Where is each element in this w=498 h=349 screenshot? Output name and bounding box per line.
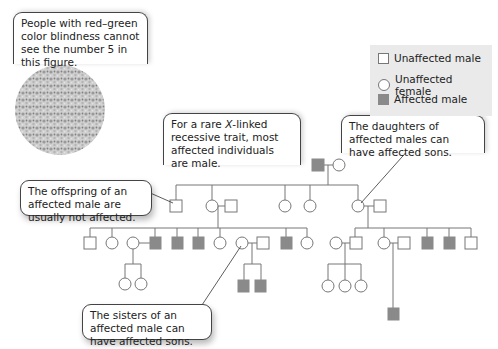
callout-text: People with red–green color blindness ca…	[21, 17, 139, 68]
legend: Unaffected male Unaffected female Affect…	[370, 45, 492, 116]
circle-icon	[378, 79, 390, 91]
callout-text: The daughters of affected males can have…	[349, 120, 452, 158]
callout-text: The offspring of an affected male are us…	[28, 185, 136, 223]
callout-color-blindness: People with red–green color blindness ca…	[13, 12, 148, 64]
callout-offspring: The offspring of an affected male are us…	[20, 180, 152, 216]
callout-text-pre: For a rare	[171, 118, 225, 130]
callout-sisters: The sisters of an affected male can have…	[82, 304, 212, 340]
legend-item-unaffected-male: Unaffected male	[378, 52, 481, 64]
square-icon	[378, 53, 389, 64]
callout-daughters: The daughters of affected males can have…	[341, 115, 485, 153]
legend-label: Unaffected male	[394, 52, 481, 64]
legend-item-affected-male: Affected male	[378, 93, 467, 105]
filled-square-icon	[378, 94, 389, 105]
callout-x-linked: For a rare X-linked recessive trait, mos…	[163, 113, 301, 165]
callout-pointers	[148, 148, 410, 305]
color-blindness-test-plate	[15, 65, 105, 155]
legend-label: Affected male	[394, 93, 467, 105]
callout-text: The sisters of an affected male can have…	[90, 309, 193, 347]
